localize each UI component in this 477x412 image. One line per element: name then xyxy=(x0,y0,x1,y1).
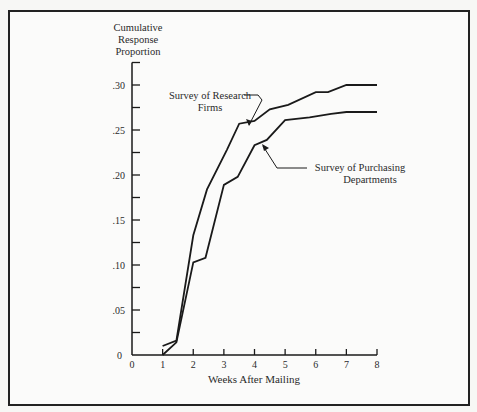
x-tick-label: 3 xyxy=(221,359,226,370)
y-tick-label: .30 xyxy=(113,80,126,91)
line-chart: CumulativeResponseProportion 0.05.10.15.… xyxy=(0,0,477,412)
y-tick-label: 0 xyxy=(117,350,122,361)
y-axis-label-line: Proportion xyxy=(116,46,162,57)
x-tick-label: 6 xyxy=(313,359,318,370)
purchasing-departments-label: Survey of Purchasing xyxy=(315,162,406,173)
y-axis-label: CumulativeResponseProportion xyxy=(114,22,163,57)
research-firms-label: Survey of Research xyxy=(169,90,252,101)
y-tick-label: .05 xyxy=(113,305,126,316)
y-tick-label: .25 xyxy=(113,125,126,136)
purchasing-departments-label: Departments xyxy=(343,174,397,185)
research-firms-line xyxy=(163,85,377,346)
x-tick-label: 8 xyxy=(375,359,380,370)
y-tick-label: .20 xyxy=(113,170,126,181)
x-tick-label: 5 xyxy=(283,359,288,370)
y-tick-label: .15 xyxy=(113,215,126,226)
research-firms-label: Firms xyxy=(198,102,223,113)
y-axis-label-line: Cumulative xyxy=(114,22,163,33)
x-tick-label: 1 xyxy=(160,359,165,370)
x-tick-label: 0 xyxy=(130,359,135,370)
purchasing-departments-leader xyxy=(263,146,307,168)
y-tick-label: .10 xyxy=(113,260,126,271)
x-tick-label: 2 xyxy=(191,359,196,370)
y-axis-ticks: 0.05.10.15.20.25.30 xyxy=(113,63,141,362)
x-axis-label: Weeks After Mailing xyxy=(208,373,300,385)
data-series xyxy=(163,85,377,355)
x-tick-label: 4 xyxy=(252,359,257,370)
arrow-head-icon xyxy=(262,144,269,151)
x-tick-label: 7 xyxy=(344,359,349,370)
axes xyxy=(132,63,377,356)
y-axis-label-line: Response xyxy=(118,34,159,45)
